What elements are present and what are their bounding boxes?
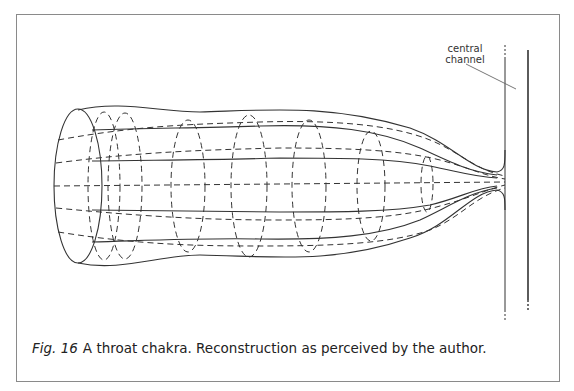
central-channel-label: central channel <box>440 43 490 65</box>
figure-caption: Fig. 16A throat chakra. Reconstruction a… <box>32 340 487 356</box>
chakra-outline-bottom <box>78 190 497 266</box>
label-line-1: central <box>440 43 490 54</box>
label-leader-line <box>466 64 516 89</box>
caption-text: A throat chakra. Reconstruction as perce… <box>83 340 487 356</box>
chakra-outline-top <box>78 106 497 172</box>
figure-number: Fig. 16 <box>32 340 78 356</box>
label-line-2: channel <box>440 54 490 65</box>
